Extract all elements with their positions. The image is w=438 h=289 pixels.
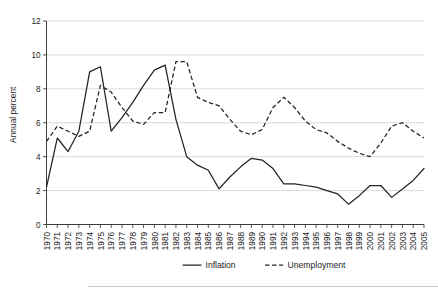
line-chart: 024681012 197019711972197319741975197619… xyxy=(0,0,438,289)
legend-label-inflation: Inflation xyxy=(206,260,236,270)
x-tick-label: 1978 xyxy=(129,232,138,251)
x-tick-label: 1981 xyxy=(161,232,170,251)
x-tick-label: 1977 xyxy=(118,232,127,251)
x-tick-label: 1995 xyxy=(312,232,321,251)
x-tick-label: 1993 xyxy=(291,232,300,251)
chart-container: 024681012 197019711972197319741975197619… xyxy=(0,0,438,289)
x-tick-label: 1970 xyxy=(43,232,52,251)
y-axis xyxy=(43,21,47,225)
x-tick-label: 1996 xyxy=(323,232,332,251)
x-tick-label: 2005 xyxy=(420,232,429,251)
x-tick-label: 1998 xyxy=(345,232,354,251)
series-line-inflation xyxy=(47,65,425,204)
series-line-unemployment xyxy=(47,62,425,157)
x-tick-label: 1982 xyxy=(172,232,181,251)
y-tick-label: 2 xyxy=(36,187,41,196)
y-axis-title-text: Annual percent xyxy=(8,86,18,143)
x-tick-label: 1983 xyxy=(183,232,192,251)
x-tick-label: 1988 xyxy=(237,232,246,251)
data-series xyxy=(47,62,425,204)
x-tick-label: 2003 xyxy=(399,232,408,251)
x-tick-label: 2000 xyxy=(366,232,375,251)
x-axis xyxy=(47,225,425,229)
legend-label-unemployment: Unemployment xyxy=(288,260,346,270)
x-tick-label: 1974 xyxy=(86,232,95,251)
x-tick-label: 1976 xyxy=(107,232,116,251)
x-tick-label: 1985 xyxy=(204,232,213,251)
x-tick-label: 1989 xyxy=(248,232,257,251)
x-tick-label: 1991 xyxy=(269,232,278,251)
x-tick-label: 1994 xyxy=(302,232,311,251)
x-tick-label: 1972 xyxy=(64,232,73,251)
x-tick-label: 1971 xyxy=(53,232,62,251)
x-tick-label: 1986 xyxy=(215,232,224,251)
x-tick-label: 1997 xyxy=(334,232,343,251)
y-tick-label: 10 xyxy=(31,51,41,60)
x-tick-label: 1999 xyxy=(355,232,364,251)
x-tick-label: 1987 xyxy=(226,232,235,251)
x-tick-label: 1979 xyxy=(140,232,149,251)
y-tick-label: 6 xyxy=(36,119,41,128)
gridlines xyxy=(47,21,425,225)
x-tick-label: 2004 xyxy=(409,232,418,251)
y-tick-label: 4 xyxy=(36,153,41,162)
x-tick-label: 1980 xyxy=(151,232,160,251)
y-tick-label: 8 xyxy=(36,85,41,94)
x-tick-label: 1973 xyxy=(75,232,84,251)
x-tick-label: 1990 xyxy=(258,232,267,251)
x-tick-label: 1984 xyxy=(194,232,203,251)
x-tick-label: 2001 xyxy=(377,232,386,251)
chart-legend: InflationUnemployment xyxy=(183,260,346,270)
x-tick-labels: 1970197119721973197419751976197719781979… xyxy=(43,232,430,251)
y-tick-labels: 024681012 xyxy=(31,17,41,230)
x-tick-label: 1992 xyxy=(280,232,289,251)
x-tick-label: 2002 xyxy=(388,232,397,251)
y-tick-label: 12 xyxy=(31,17,41,26)
x-tick-label: 1975 xyxy=(97,232,106,251)
y-axis-title: Annual percent xyxy=(8,86,18,143)
y-tick-label: 0 xyxy=(36,221,41,230)
